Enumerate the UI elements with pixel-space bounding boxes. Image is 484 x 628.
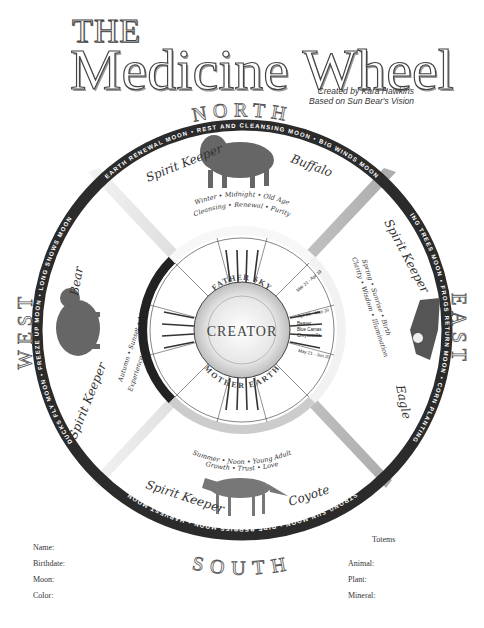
- totem-chrysocolla: Chrysocolla: [297, 333, 321, 338]
- direction-east: EAST: [448, 293, 470, 367]
- moon-field-label: Moon:: [33, 575, 54, 584]
- direction-south: SOUTH: [191, 551, 294, 578]
- plant-field-label: Plant:: [348, 575, 367, 584]
- west-spirit-keeper: Spirit Keeper: [66, 359, 110, 441]
- eagle-icon: [410, 298, 440, 360]
- bear-icon: [56, 288, 100, 356]
- creator-label: CREATOR: [207, 324, 278, 339]
- totems-heading: Totems: [372, 535, 395, 544]
- south-animal: Coyote: [287, 482, 332, 508]
- west-animal: Bear: [67, 264, 86, 297]
- direction-west: WEST: [14, 291, 36, 369]
- east-animal: Eagle: [393, 383, 414, 421]
- medicine-wheel: EARTH RENEWAL MOON • REST AND CLEANSING …: [0, 0, 484, 628]
- north-qualities-2: Cleansing • Renewal • Purity: [192, 201, 292, 219]
- color-field-label: Color:: [33, 591, 53, 600]
- animal-field-label: Animal:: [348, 559, 374, 568]
- mineral-field-label: Mineral:: [348, 591, 376, 600]
- north-animal: Buffalo: [288, 151, 334, 179]
- buffalo-icon: [200, 135, 274, 188]
- name-field-label: Name:: [33, 543, 54, 552]
- birthdate-field-label: Birthdate:: [33, 559, 65, 568]
- totem-beaver: Beaver: [297, 321, 312, 326]
- totem-blue-camas: Blue Camas: [297, 327, 322, 332]
